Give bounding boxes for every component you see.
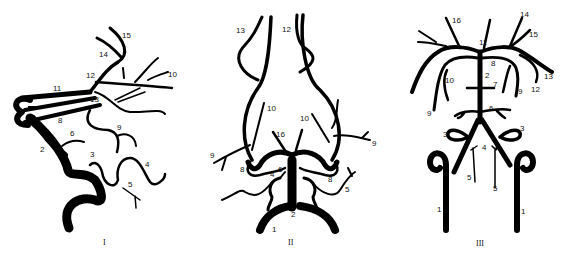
vessel-anterior-right [302, 15, 339, 160]
label-1a: 1 [437, 205, 442, 214]
trunk-marker [28, 106, 36, 110]
label-13: 13 [90, 95, 99, 104]
panel-label-i: I [103, 238, 106, 247]
label-4: 4 [482, 143, 487, 152]
label-14: 14 [99, 50, 108, 59]
label-1a: 1 [272, 225, 277, 234]
label-3b: 3 [520, 124, 525, 133]
vessel-15 [508, 30, 530, 48]
vessel-13 [95, 92, 165, 114]
vessel-5 [123, 188, 140, 208]
cerebral-arteries-diagram: 1 2 3 4 5 6 8 9 10 11 12 13 14 15 I [0, 0, 566, 259]
label-3: 3 [90, 150, 95, 159]
label-14: 14 [520, 10, 529, 19]
vessel-10 [96, 82, 172, 88]
label-15: 15 [122, 31, 131, 40]
panel-iii: 1 1 2 3 3 4 5 5 6 7 8 9 9 10 11 12 13 14… [412, 10, 553, 248]
label-13: 13 [544, 72, 553, 81]
label-9: 9 [117, 123, 122, 132]
label-3a: 3 [443, 130, 448, 139]
label-5: 5 [345, 185, 350, 194]
label-9a: 9 [427, 109, 432, 118]
vessel-inner-left [434, 57, 478, 110]
vessel-9b [117, 134, 136, 146]
vessel-5-left [471, 146, 477, 182]
vessel-10b [135, 58, 158, 82]
label-10: 10 [168, 70, 177, 79]
label-11: 11 [479, 38, 488, 47]
panel-i: 1 2 3 4 5 6 8 9 10 11 12 13 14 15 I [16, 28, 177, 247]
vessel-10 [444, 70, 448, 100]
panel-label-ii: II [288, 238, 294, 247]
vessel-10-left [252, 103, 264, 150]
label-16: 16 [452, 16, 461, 25]
label-2: 2 [291, 210, 296, 219]
label-7: 7 [493, 80, 498, 89]
vessel-16b [418, 31, 446, 46]
label-12: 12 [531, 85, 540, 94]
label-8b: 8 [328, 175, 333, 184]
label-8: 8 [491, 59, 496, 68]
vessel-1-right [517, 153, 533, 230]
label-6: 6 [278, 165, 283, 174]
vessel-6-right [480, 109, 510, 118]
panel-ii: 1 1 2 4 5 6 8 8 9 9 10 10 12 13 16 II [210, 15, 377, 247]
label-2: 2 [485, 71, 490, 80]
vessel-3-left [448, 130, 468, 140]
label-16: 16 [276, 130, 285, 139]
label-8: 8 [58, 116, 63, 125]
vessel-arc-right [292, 152, 337, 169]
vessel-6 [62, 141, 84, 146]
label-4: 4 [270, 170, 275, 179]
label-9b: 9 [372, 139, 377, 148]
label-5: 5 [128, 180, 133, 189]
label-11: 11 [53, 84, 62, 93]
label-9b: 9 [518, 87, 523, 96]
vessel-4-left-b [222, 182, 272, 200]
label-10b: 10 [300, 114, 309, 123]
vessel-1-left [430, 153, 446, 230]
vessel-9-left [214, 145, 250, 170]
vessel-anterior-left [244, 17, 271, 160]
label-5a: 5 [467, 173, 472, 182]
label-9a: 9 [210, 151, 215, 160]
label-13: 13 [236, 26, 245, 35]
panel-label-iii: III [476, 239, 484, 248]
vessel-3-right [500, 130, 520, 140]
vessel-10d [123, 68, 124, 78]
vessel-6-left [455, 111, 480, 118]
vessel-10-right [312, 114, 329, 142]
vessel-4-left [268, 178, 280, 210]
label-6: 6 [70, 129, 75, 138]
label-10: 10 [445, 76, 454, 85]
label-6: 6 [489, 104, 494, 113]
label-8a: 8 [240, 165, 245, 174]
vessel-16b [296, 130, 302, 150]
label-12: 12 [86, 71, 95, 80]
label-2: 2 [40, 145, 45, 154]
label-15: 15 [529, 30, 538, 39]
label-12: 12 [282, 25, 291, 34]
vessel-9-right [503, 66, 510, 92]
label-1b: 1 [521, 207, 526, 216]
label-1b: 1 [335, 225, 340, 234]
vessel-5-right [492, 146, 498, 188]
label-5b: 5 [493, 184, 498, 193]
label-4: 4 [145, 160, 150, 169]
vessel-10c [148, 72, 168, 80]
vessel-9 [88, 110, 119, 152]
label-10a: 10 [267, 104, 276, 113]
label-1: 1 [69, 222, 74, 231]
vessel-arc-left [248, 152, 292, 169]
